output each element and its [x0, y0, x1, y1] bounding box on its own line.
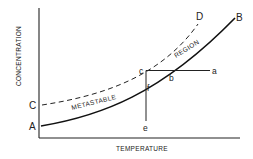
y-axis-title: CONCENTRATION: [15, 26, 22, 86]
label-a: a: [212, 66, 217, 76]
label-c: c: [139, 66, 144, 76]
region-label-metastable: METASTABLE: [71, 93, 118, 111]
label-C: C: [29, 100, 36, 111]
label-B: B: [236, 12, 243, 23]
label-D: D: [196, 11, 203, 22]
metastable-region-diagram: A C B D c a b f e METASTABLE REGION TEMP…: [0, 0, 253, 159]
label-b: b: [169, 73, 174, 83]
supersolubility-curve: [42, 24, 198, 105]
solubility-curve: [41, 18, 235, 126]
label-e: e: [143, 123, 148, 133]
label-A: A: [29, 121, 36, 132]
x-axis-title: TEMPERATURE: [116, 145, 168, 152]
